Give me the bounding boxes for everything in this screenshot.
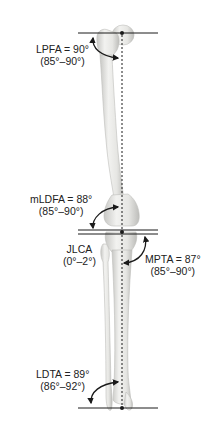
mpta-value: MPTA = 87° bbox=[145, 253, 201, 265]
tibial-plateau bbox=[105, 232, 137, 252]
tibia-fibula-bones bbox=[101, 232, 137, 410]
femoral-condyles bbox=[104, 194, 139, 226]
mldfa-range: (85°–90°) bbox=[30, 205, 92, 217]
knee-center-point bbox=[120, 230, 124, 234]
mldfa-label: mLDFA = 88° (85°–90°) bbox=[30, 193, 92, 217]
medial-malleolus bbox=[124, 392, 133, 410]
ldta-value: LDTA = 89° bbox=[36, 368, 89, 380]
ankle-center-point bbox=[120, 406, 124, 410]
femoral-shaft bbox=[100, 55, 124, 200]
lower-limb-alignment-diagram bbox=[0, 0, 217, 435]
ldta-range: (86°–92°) bbox=[36, 380, 89, 392]
mldfa-value: mLDFA = 88° bbox=[30, 193, 92, 205]
lpfa-label: LPFA = 90° (85°–90°) bbox=[36, 43, 89, 67]
mpta-range: (85°–90°) bbox=[145, 265, 201, 277]
ldta-label: LDTA = 89° (86°–92°) bbox=[36, 368, 89, 392]
jlca-range: (0°–2°) bbox=[63, 255, 96, 267]
femur-bone bbox=[97, 25, 139, 226]
lpfa-range: (85°–90°) bbox=[36, 55, 89, 67]
lpfa-value: LPFA = 90° bbox=[36, 43, 89, 55]
jlca-label: JLCA (0°–2°) bbox=[63, 243, 96, 267]
jlca-value: JLCA bbox=[63, 243, 96, 255]
femoral-head-center-point bbox=[120, 31, 124, 35]
mpta-label: MPTA = 87° (85°–90°) bbox=[145, 253, 201, 277]
